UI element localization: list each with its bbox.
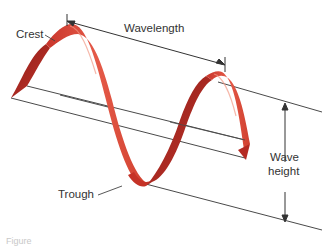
crest-label: Crest (16, 28, 43, 41)
trough-leader (98, 186, 122, 195)
trough-label: Trough (58, 188, 94, 201)
wavelength-label: Wavelength (124, 22, 184, 35)
wave-height-label-2: height (268, 165, 299, 178)
wave-ribbon (11, 24, 250, 187)
wave-height-label-1: Wave (270, 151, 299, 164)
figure-caption: Figure (6, 236, 32, 246)
